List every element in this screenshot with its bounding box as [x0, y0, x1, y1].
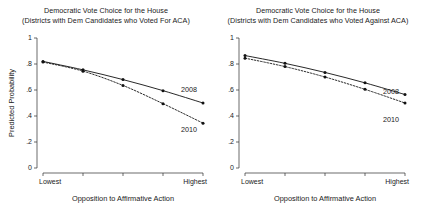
series-marker-2010	[324, 76, 327, 79]
panel-right-label-2008: 2008	[383, 87, 399, 96]
y-tick-label: .6	[26, 86, 32, 93]
series-marker-2008	[162, 89, 165, 92]
series-marker-2010	[82, 70, 85, 73]
series-marker-2008	[202, 102, 205, 105]
panel-left-label-2008: 2008	[181, 85, 197, 94]
x-tick-label: Lowest	[39, 178, 61, 185]
panel-left-y-ticks: 0.2.4.6.81	[26, 34, 37, 171]
series-marker-2008	[324, 71, 327, 74]
y-tick-label: .8	[228, 60, 234, 67]
series-marker-2008	[404, 93, 407, 96]
panel-right-plot: 0.2.4.6.81 LowestHighest Opposition to A…	[212, 0, 424, 212]
y-tick-label: 0	[230, 164, 234, 171]
series-marker-2008	[284, 62, 287, 65]
series-marker-2010	[244, 57, 247, 60]
y-tick-label: .4	[26, 112, 32, 119]
panel-left-plot: 0.2.4.6.81 LowestHighest Predicted Proba…	[0, 0, 212, 212]
series-marker-2010	[364, 88, 367, 91]
x-tick-label: Highest	[183, 178, 207, 186]
series-marker-2010	[162, 102, 165, 105]
y-tick-label: 1	[230, 34, 234, 41]
y-tick-label: .4	[228, 112, 234, 119]
panel-left: Democratic Vote Choice for the House (Di…	[0, 0, 212, 212]
series-marker-2010	[404, 102, 407, 105]
panel-right-y-ticks: 0.2.4.6.81	[228, 34, 239, 171]
panel-right-x-axis-title: Opposition to Affirmative Action	[274, 194, 376, 203]
series-marker-2008	[122, 78, 125, 81]
figure-two-panel-line-chart: Democratic Vote Choice for the House (Di…	[0, 0, 424, 212]
series-line-2008	[43, 61, 203, 103]
panel-right-label-2010: 2010	[383, 115, 399, 124]
y-tick-label: .2	[228, 138, 234, 145]
y-tick-label: 0	[28, 164, 32, 171]
series-marker-2010	[122, 84, 125, 87]
y-tick-label: .6	[228, 86, 234, 93]
panel-right-x-ticks: LowestHighest	[241, 173, 409, 186]
series-line-2010	[245, 58, 405, 103]
series-marker-2008	[364, 81, 367, 84]
series-line-2008	[245, 56, 405, 95]
y-tick-label: 1	[28, 34, 32, 41]
series-line-2010	[43, 62, 203, 123]
panel-left-y-axis-title: Predicted Probability	[7, 69, 16, 137]
panel-right: Democratic Vote Choice for the House (Di…	[212, 0, 424, 212]
series-marker-2008	[244, 54, 247, 57]
series-marker-2010	[284, 65, 287, 68]
x-tick-label: Lowest	[241, 178, 263, 185]
x-tick-label: Highest	[385, 178, 409, 186]
y-tick-label: .8	[26, 60, 32, 67]
series-marker-2010	[202, 122, 205, 125]
panel-right-series	[244, 54, 407, 104]
panel-left-x-ticks: LowestHighest	[39, 173, 207, 186]
panel-left-x-axis-title: Opposition to Affirmative Action	[72, 194, 174, 203]
panel-left-label-2010: 2010	[181, 125, 197, 134]
series-marker-2010	[42, 61, 45, 64]
y-tick-label: .2	[26, 138, 32, 145]
